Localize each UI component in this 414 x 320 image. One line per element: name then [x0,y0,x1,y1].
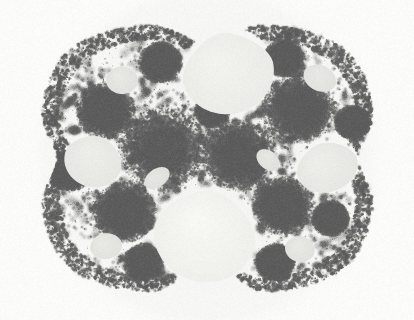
fractal-image-container: Kleinian group limit set [0,0,414,320]
fractal-limit-set-image [0,0,414,320]
